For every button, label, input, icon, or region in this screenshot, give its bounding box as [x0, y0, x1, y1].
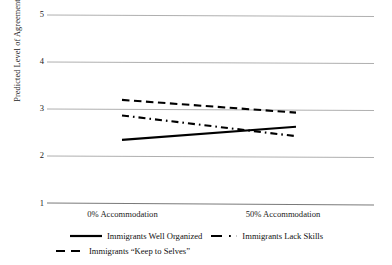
legend-item-immigrants-well-organized[interactable]: Immigrants Well Organized	[69, 231, 202, 241]
legend-key-dashed-icon	[55, 246, 85, 256]
chart-figure: Predicted Level of Agreement 5 4 3 2 1 0…	[0, 0, 392, 265]
legend-label-immigrants-keep-to-selves: Immigrants “Keep to Selves”	[89, 246, 190, 256]
legend-row-1: Immigrants Well Organized Immigrants Lac…	[0, 228, 392, 243]
gridlines	[47, 15, 374, 205]
gridline-5	[47, 15, 374, 17]
gridline-3	[47, 109, 374, 111]
gridline-4	[47, 62, 374, 64]
gridline-1	[47, 203, 374, 205]
gridline-2	[47, 156, 374, 158]
legend-row-2: Immigrants “Keep to Selves”	[0, 243, 392, 258]
plot-area	[0, 0, 392, 265]
legend-label-immigrants-well-organized: Immigrants Well Organized	[107, 231, 202, 241]
x-axis-tick-0-pct: 0% Accommodation	[70, 209, 175, 219]
legend-key-dash-dot-icon	[210, 231, 238, 241]
legend-label-immigrants-lack-skills: Immigrants Lack Skills	[242, 231, 323, 241]
x-axis-tick-50-pct: 50% Accommodation	[228, 209, 338, 219]
series-line-immigrants-keep-to-selves	[122, 100, 296, 113]
legend-item-immigrants-keep-to-selves[interactable]: Immigrants “Keep to Selves”	[55, 246, 190, 256]
legend-item-immigrants-lack-skills[interactable]: Immigrants Lack Skills	[210, 231, 323, 241]
series-line-immigrants-well-organized	[122, 127, 296, 140]
chart-legend: Immigrants Well Organized Immigrants Lac…	[0, 228, 392, 258]
legend-key-solid-icon	[69, 231, 103, 241]
